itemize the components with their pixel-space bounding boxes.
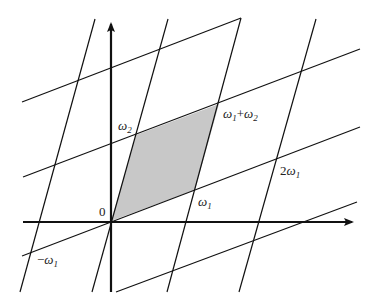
lattice-diagram: 0 ω2 ω1 ω1+ω2 2ω1 −ω1 [0, 0, 378, 306]
lattice-line-steep-1 [20, 19, 95, 292]
two-omega1-label: 2ω1 [280, 163, 300, 180]
lattice-line-steep-4 [239, 19, 316, 292]
lattice-line-shallow-4 [22, 18, 241, 102]
omega1-plus-omega2-label: ω1+ω2 [223, 106, 258, 123]
origin-label: 0 [99, 204, 106, 219]
omega1-label: ω1 [198, 194, 212, 211]
neg-omega1-label: −ω1 [37, 252, 58, 269]
lattice-line-shallow-1 [116, 202, 357, 292]
omega2-label: ω2 [118, 118, 132, 135]
